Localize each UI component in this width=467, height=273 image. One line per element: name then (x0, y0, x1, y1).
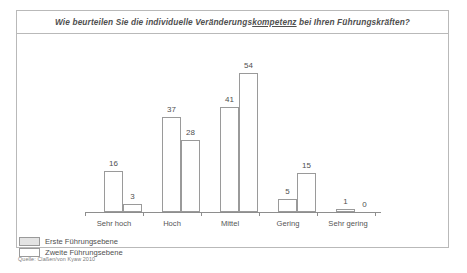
bar-value-mittel-erste: 41 (225, 95, 234, 104)
x-axis-line (85, 212, 381, 213)
legend-item-erste[interactable]: Erste Führungsebene (19, 237, 123, 246)
chart-title-band: Wie beurteilen Sie die individuelle Verä… (17, 11, 448, 34)
title-text-underlined: kompetenz (252, 17, 296, 27)
title-text-before: Wie beurteilen Sie die individuelle Verä… (55, 17, 252, 27)
bar-sehr-hoch-zweite[interactable] (123, 204, 142, 212)
bar-wrap-mittel-zweite: 54 (239, 62, 258, 212)
bar-wrap-sehr-gering-erste: 1 (336, 62, 355, 212)
bar-value-hoch-erste: 37 (167, 105, 176, 114)
x-axis-label-sehr-gering: Sehr gering (328, 219, 367, 228)
bar-wrap-hoch-erste: 37 (162, 62, 181, 212)
x-tick-3 (259, 212, 260, 216)
bar-value-hoch-zweite: 28 (186, 128, 195, 137)
x-tick-1 (143, 212, 144, 216)
source-note: Quelle: Claßen/von Kyaw 2010 (18, 256, 95, 262)
bar-value-sehr-hoch-zweite: 3 (130, 192, 134, 201)
x-axis-label-sehr-hoch: Sehr hoch (97, 219, 132, 228)
bar-gering-erste[interactable] (278, 199, 297, 212)
bar-gering-zweite[interactable] (297, 173, 316, 212)
plot-area: 16 3 37 28 41 (17, 34, 450, 249)
bar-value-gering-erste: 5 (285, 187, 289, 196)
bar-mittel-zweite[interactable] (239, 73, 258, 212)
bar-mittel-erste[interactable] (220, 107, 239, 212)
bar-wrap-sehr-hoch-zweite: 3 (123, 62, 142, 212)
bar-group-hoch: 37 28 (162, 62, 200, 212)
chart-frame: Wie beurteilen Sie die individuelle Verä… (16, 10, 449, 248)
bar-value-mittel-zweite: 54 (244, 61, 253, 70)
legend: Erste Führungsebene Zweite Führungsebene (19, 237, 123, 257)
x-tick-4 (317, 212, 318, 216)
page-title: Wie beurteilen Sie die individuelle Verä… (55, 17, 410, 27)
bar-group-mittel: 41 54 (220, 62, 258, 212)
bar-group-gering: 5 15 (278, 62, 316, 212)
title-text-after: bei Ihren Führungskräften? (297, 17, 410, 27)
bar-wrap-sehr-hoch-erste: 16 (104, 62, 123, 212)
bar-sehr-gering-erste[interactable] (336, 209, 355, 212)
bar-group-sehr-gering: 1 0 (336, 62, 374, 212)
bar-value-sehr-gering-zweite: 0 (362, 200, 366, 209)
bar-value-sehr-hoch-erste: 16 (109, 159, 118, 168)
bar-value-gering-zweite: 15 (302, 161, 311, 170)
bar-wrap-gering-zweite: 15 (297, 62, 316, 212)
x-axis-label-hoch: Hoch (163, 219, 181, 228)
legend-label-erste: Erste Führungsebene (45, 237, 118, 246)
bar-wrap-sehr-gering-zweite: 0 (355, 62, 374, 212)
x-tick-5 (375, 212, 376, 216)
legend-swatch-erste (19, 237, 40, 246)
bar-wrap-mittel-erste: 41 (220, 62, 239, 212)
x-tick-2 (201, 212, 202, 216)
x-axis-label-mittel: Mittel (221, 219, 239, 228)
bar-value-sehr-gering-erste: 1 (343, 197, 347, 206)
x-axis-label-gering: Gering (277, 219, 300, 228)
bar-sehr-hoch-erste[interactable] (104, 171, 123, 212)
bar-wrap-gering-erste: 5 (278, 62, 297, 212)
bar-group-sehr-hoch: 16 3 (104, 62, 142, 212)
x-tick-0 (85, 212, 86, 216)
bar-wrap-hoch-zweite: 28 (181, 62, 200, 212)
bar-hoch-erste[interactable] (162, 117, 181, 212)
bar-hoch-zweite[interactable] (181, 140, 200, 212)
